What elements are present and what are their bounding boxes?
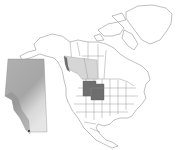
province-inset [5, 59, 47, 134]
arctic-island-2 [112, 13, 126, 22]
baffin-island [122, 30, 138, 50]
arctic-islands [98, 22, 124, 36]
arctic-island-3 [94, 34, 104, 41]
range-map [0, 0, 181, 150]
inset-location-dot [28, 130, 30, 132]
